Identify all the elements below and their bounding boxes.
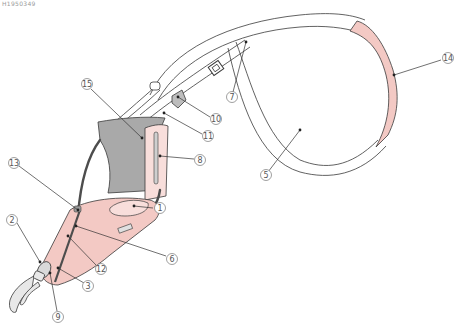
- hook: [9, 270, 45, 312]
- callout-2: 2: [7, 215, 18, 226]
- callout-number: 9: [55, 313, 60, 322]
- callout-number: 5: [263, 171, 268, 180]
- callout-6: 6: [167, 254, 178, 265]
- callout-13: 13: [9, 158, 20, 169]
- callout-number: 11: [203, 132, 213, 141]
- callouts: 12356789101112131415: [7, 53, 454, 323]
- callout-3: 3: [83, 281, 94, 292]
- callout-number: 8: [197, 156, 202, 165]
- callout-11: 11: [203, 131, 214, 142]
- callout-10: 10: [211, 114, 222, 125]
- side-pad-slot: [154, 132, 158, 184]
- callout-number: 15: [82, 80, 92, 89]
- product-diagram: 12356789101112131415: [0, 0, 462, 327]
- callout-9: 9: [53, 312, 64, 323]
- callout-1: 1: [155, 203, 166, 214]
- callout-number: 7: [229, 93, 234, 102]
- callout-number: 6: [169, 255, 174, 264]
- callout-number: 2: [9, 216, 14, 225]
- callout-7: 7: [227, 92, 238, 103]
- callout-number: 3: [85, 282, 90, 291]
- callout-15: 15: [82, 79, 93, 90]
- callout-number: 14: [443, 54, 453, 63]
- callout-14: 14: [443, 53, 454, 64]
- callout-number: 12: [96, 265, 106, 274]
- callout-number: 10: [211, 115, 221, 124]
- callout-5: 5: [261, 170, 272, 181]
- shoulder-pad: [350, 21, 397, 147]
- callout-8: 8: [195, 155, 206, 166]
- callout-number: 13: [9, 159, 19, 168]
- callout-12: 12: [96, 264, 107, 275]
- callout-number: 1: [157, 204, 162, 213]
